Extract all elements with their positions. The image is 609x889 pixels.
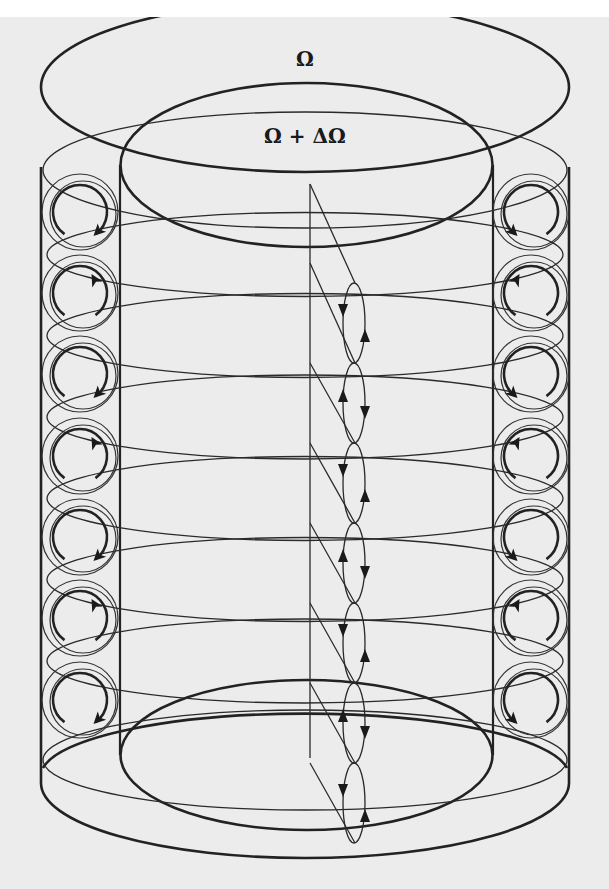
small-vortex [338, 603, 370, 683]
vortex-cell-right [493, 499, 569, 575]
small-vortex-ellipse [343, 603, 365, 683]
vortex-circulation-arc [504, 591, 558, 640]
vortex-circulation-arc [504, 673, 558, 722]
vortex-cell-left [42, 499, 118, 575]
vortex-circulation-arc [504, 185, 558, 234]
vortex-cell-right [493, 174, 569, 250]
vortex-circulation-arc [53, 673, 107, 722]
vortex-cell-left [42, 336, 118, 412]
vortex-cell-right [493, 662, 569, 738]
vortex-circulation-arc [504, 510, 558, 559]
small-vortex-ellipse [343, 443, 365, 523]
inner-cylinder-top [121, 83, 493, 247]
vortex-circulation-arc [53, 510, 107, 559]
small-vortices [338, 283, 370, 843]
plane-diagonal [310, 603, 355, 683]
outer-cylinder-bottom-front [41, 783, 569, 858]
small-vortex-ellipse [343, 683, 365, 763]
vortex-circulation-arc [53, 266, 107, 315]
plane-diagonal [310, 523, 355, 603]
vortex-cell-right [493, 418, 569, 494]
flow-level-ellipses [43, 112, 567, 810]
vortex-cell-right [493, 255, 569, 331]
vortex-cell-left [42, 418, 118, 494]
small-vortex-ellipse [343, 363, 365, 443]
vortex-cell-left [42, 580, 118, 656]
arrow-up-icon [360, 809, 370, 822]
level-ellipse [47, 619, 563, 703]
vortex-circulation-arc [53, 429, 107, 478]
vortex-circulation-arc [504, 429, 558, 478]
plane-diagonal [310, 683, 355, 763]
arrow-up-icon [360, 649, 370, 662]
arrow-up-icon [360, 489, 370, 502]
small-vortex-ellipse [343, 283, 365, 363]
outer-rotation-label: Ω [296, 47, 314, 71]
vortex-circulation-arc [504, 266, 558, 315]
level-ellipse [47, 375, 563, 459]
vortex-cell-left [42, 662, 118, 738]
meridional-plane [310, 184, 355, 843]
vortex-circulation-arc [53, 185, 107, 234]
arrow-down-icon [338, 624, 348, 637]
arrow-down-icon [338, 304, 348, 317]
vortex-cell-right [493, 580, 569, 656]
level-ellipse [47, 294, 563, 378]
arrow-down-icon [360, 726, 370, 739]
arrow-down-icon [338, 784, 348, 797]
arrow-up-icon [338, 549, 348, 562]
small-vortex [338, 523, 370, 603]
small-vortex [338, 683, 370, 763]
level-ellipse [47, 213, 563, 297]
vortex-circulation-arc [504, 347, 558, 396]
small-vortex-ellipse [343, 763, 365, 843]
vortex-cell-left [42, 174, 118, 250]
vortex-circulation-arc [53, 591, 107, 640]
small-vortex [338, 443, 370, 523]
level-ellipse [47, 538, 563, 622]
arrow-up-icon [338, 389, 348, 402]
inner-rotation-label: Ω + ΔΩ [264, 124, 346, 148]
arrow-up-icon [360, 329, 370, 342]
arrow-down-icon [360, 406, 370, 419]
arrow-down-icon [360, 566, 370, 579]
plane-diagonal [310, 443, 355, 523]
small-vortex-ellipse [343, 523, 365, 603]
vortex-cell-left [42, 255, 118, 331]
arrow-down-icon [338, 464, 348, 477]
diagram-canvas: Ω Ω + ΔΩ [0, 17, 609, 889]
vortex-cell-right [493, 336, 569, 412]
small-vortex [338, 763, 370, 843]
level-ellipse [47, 457, 563, 541]
plane-diagonal [310, 184, 355, 283]
vortex-circulation-arc [53, 347, 107, 396]
plane-diagonal [310, 263, 355, 363]
taylor-couette-diagram: Ω Ω + ΔΩ [0, 17, 609, 889]
